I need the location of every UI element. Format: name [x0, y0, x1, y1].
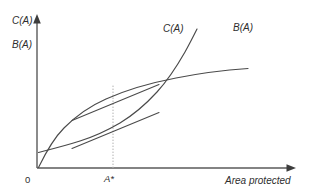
curve-label-benefit: B(A)	[233, 22, 253, 33]
tangent-segment-cost	[72, 113, 159, 149]
diagram-canvas: C(A) B(A) C(A) B(A) 0 A* Area protected	[0, 0, 323, 189]
economics-diagram: C(A) B(A) C(A) B(A) 0 A* Area protected	[0, 0, 323, 189]
curve-label-cost: C(A)	[163, 23, 184, 34]
benefit-curve-BA	[39, 69, 249, 168]
optimum-tick-label: A*	[103, 173, 114, 184]
origin-label: 0	[25, 174, 30, 185]
x-axis-label: Area protected	[224, 175, 291, 186]
y-axis-label-cost: C(A)	[12, 15, 33, 26]
y-axis-label-benefit: B(A)	[12, 39, 32, 50]
x-axis-arrow-icon	[287, 164, 297, 172]
y-axis-arrow-icon	[33, 14, 41, 24]
cost-curve-CA	[39, 29, 198, 153]
